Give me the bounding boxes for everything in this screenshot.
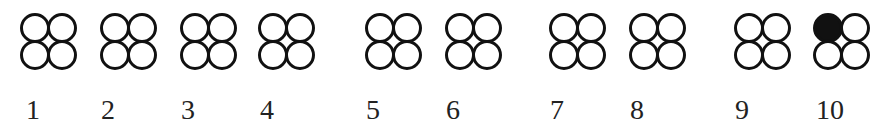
group-number-label: 9	[735, 96, 749, 124]
empty-circle-icon	[761, 40, 791, 70]
empty-circle-icon	[576, 40, 606, 70]
empty-circle-icon	[734, 40, 764, 70]
empty-circle-icon	[258, 40, 288, 70]
empty-circle-icon	[445, 13, 475, 43]
empty-circle-icon	[656, 40, 686, 70]
empty-circle-icon	[576, 13, 606, 43]
empty-circle-icon	[365, 40, 395, 70]
group-number-label: 10	[816, 96, 844, 124]
empty-circle-icon	[629, 40, 659, 70]
empty-circle-icon	[47, 13, 77, 43]
empty-circle-icon	[656, 13, 686, 43]
circle-group-9	[734, 13, 792, 69]
circle-group-4	[258, 13, 316, 69]
empty-circle-icon	[549, 13, 579, 43]
empty-circle-icon	[207, 13, 237, 43]
group-number-label: 2	[101, 96, 115, 124]
empty-circle-icon	[472, 13, 502, 43]
empty-circle-icon	[365, 13, 395, 43]
empty-circle-icon	[127, 40, 157, 70]
empty-circle-icon	[761, 13, 791, 43]
empty-circle-icon	[20, 13, 50, 43]
empty-circle-icon	[285, 13, 315, 43]
empty-circle-icon	[445, 40, 475, 70]
empty-circle-icon	[813, 40, 843, 70]
circle-group-1	[20, 13, 78, 69]
empty-circle-icon	[840, 13, 870, 43]
group-number-label: 6	[446, 96, 460, 124]
group-number-label: 1	[26, 96, 40, 124]
empty-circle-icon	[285, 40, 315, 70]
group-number-label: 7	[550, 96, 564, 124]
empty-circle-icon	[392, 13, 422, 43]
filled-circle-icon	[813, 13, 843, 43]
circle-group-6	[445, 13, 503, 69]
empty-circle-icon	[100, 40, 130, 70]
circle-group-10	[813, 13, 871, 69]
empty-circle-icon	[20, 40, 50, 70]
empty-circle-icon	[392, 40, 422, 70]
empty-circle-icon	[629, 13, 659, 43]
empty-circle-icon	[840, 40, 870, 70]
circle-group-7	[549, 13, 607, 69]
empty-circle-icon	[180, 40, 210, 70]
circle-group-3	[180, 13, 238, 69]
circle-group-8	[629, 13, 687, 69]
empty-circle-icon	[207, 40, 237, 70]
empty-circle-icon	[472, 40, 502, 70]
empty-circle-icon	[127, 13, 157, 43]
empty-circle-icon	[47, 40, 77, 70]
circle-group-5	[365, 13, 423, 69]
empty-circle-icon	[100, 13, 130, 43]
group-number-label: 8	[630, 96, 644, 124]
empty-circle-icon	[549, 40, 579, 70]
group-number-label: 4	[260, 96, 274, 124]
empty-circle-icon	[258, 13, 288, 43]
group-number-label: 5	[366, 96, 380, 124]
empty-circle-icon	[180, 13, 210, 43]
group-number-label: 3	[181, 96, 195, 124]
circle-group-2	[100, 13, 158, 69]
empty-circle-icon	[734, 13, 764, 43]
